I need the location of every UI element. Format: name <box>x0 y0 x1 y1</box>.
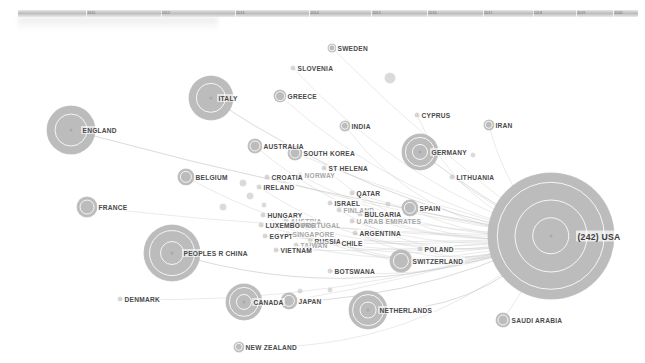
graph-node-label-ireland: IRELAND <box>262 183 296 191</box>
graph-node-australia[interactable] <box>248 139 262 153</box>
graph-node-spain[interactable] <box>402 200 418 216</box>
graph-node-poland[interactable] <box>418 247 422 251</box>
graph-node-core <box>419 151 422 154</box>
graph-node-core <box>70 129 73 132</box>
graph-node-sweden[interactable] <box>328 44 336 52</box>
graph-node-label-slovenia: SLOVENIA <box>296 64 335 72</box>
graph-node-slovenia[interactable] <box>291 66 295 70</box>
graph-node-unlabeled[interactable] <box>471 153 475 157</box>
graph-node-label-spain: SPAIN <box>418 204 442 212</box>
graph-node-label-japan: JAPAN <box>297 297 323 305</box>
graph-node-label-qatar: QATAR <box>355 189 382 197</box>
graph-node-label-botswana: BOTSWANA <box>333 267 376 275</box>
graph-node-label-vietnam: VIETNAM <box>279 246 313 254</box>
graph-node-luxembourg[interactable] <box>259 223 263 227</box>
graph-node-label-u-arab-emirates: U ARAB EMIRATES <box>355 217 423 225</box>
graph-node-u-arab-emirates[interactable] <box>350 219 354 223</box>
graph-node-label-sweden: SWEDEN <box>336 44 369 52</box>
graph-node-unlabeled[interactable] <box>298 289 302 293</box>
graph-node-label-usa: (242) USA <box>576 231 622 242</box>
graph-node-saudi-arabia[interactable] <box>496 313 510 327</box>
graph-node-label-germany: GERMANY <box>430 148 468 156</box>
graph-node-israel[interactable] <box>328 201 332 205</box>
graph-node-label-croatia: CROATIA <box>270 173 304 181</box>
graph-node-unlabeled[interactable] <box>385 73 395 83</box>
graph-node-botswana[interactable] <box>328 269 332 273</box>
graph-node-st-helena[interactable] <box>322 166 326 170</box>
graph-node-label-chile: CHILE <box>340 239 364 247</box>
graph-node-belgium[interactable] <box>178 169 194 185</box>
graph-node-label-south-korea: SOUTH KOREA <box>302 149 356 157</box>
graph-node-unlabeled[interactable] <box>240 180 246 186</box>
graph-node-label-norway: NORWAY <box>303 171 336 179</box>
graph-node-qatar[interactable] <box>350 191 354 195</box>
graph-node-label-poland: POLAND <box>423 245 455 253</box>
graph-node-label-lithuania: LITHUANIA <box>455 173 496 181</box>
graph-node-label-portugal: PORTUGAL <box>300 221 342 229</box>
network-graph-visualization: 2011201220132014201520162017201820192020… <box>0 0 645 363</box>
graph-node-label-iran: IRAN <box>494 121 514 129</box>
graph-canvas[interactable]: (242) USAENGLANDITALYPEOPLES R CHINAGERM… <box>0 0 645 363</box>
graph-node-core <box>367 309 370 312</box>
graph-node-finland[interactable] <box>337 208 341 212</box>
graph-node-core <box>210 97 213 100</box>
graph-node-label-st-helena: ST HELENA <box>327 164 370 172</box>
graph-node-unlabeled[interactable] <box>220 204 226 210</box>
graph-node-india[interactable] <box>340 121 350 131</box>
graph-node-label-greece: GREECE <box>286 92 318 100</box>
graph-node-label-canada: CANADA <box>252 298 285 306</box>
graph-node-label-italy: ITALY <box>217 94 239 102</box>
graph-node-core <box>243 301 246 304</box>
graph-node-unlabeled[interactable] <box>247 193 253 199</box>
graph-node-croatia[interactable] <box>265 175 269 179</box>
graph-node-label-belgium: BELGIUM <box>194 173 229 181</box>
graph-node-label-france: FRANCE <box>97 203 129 211</box>
graph-node-argentina[interactable] <box>353 231 357 235</box>
graph-node-core <box>171 252 174 255</box>
graph-node-label-netherlands: NETHERLANDS <box>378 306 434 314</box>
graph-node-label-argentina: ARGENTINA <box>358 229 402 237</box>
graph-node-switzerland[interactable] <box>390 250 412 272</box>
graph-node-ireland[interactable] <box>257 185 261 189</box>
graph-node-label-england: ENGLAND <box>81 126 118 134</box>
graph-node-label-switzerland: SWITZERLAND <box>411 257 465 265</box>
graph-node-label-saudi-arabia: SAUDI ARABIA <box>510 316 564 324</box>
graph-node-label-new-zealand: NEW ZEALAND <box>244 343 298 351</box>
graph-node-vietnam[interactable] <box>274 248 278 252</box>
graph-node-unlabeled[interactable] <box>262 203 266 207</box>
graph-node-label-cyprus: CYPRUS <box>420 111 452 119</box>
graph-node-france[interactable] <box>77 197 97 217</box>
graph-node-unlabeled[interactable] <box>386 202 390 206</box>
graph-node-label-india: INDIA <box>350 122 372 130</box>
graph-node-denmark[interactable] <box>118 297 122 301</box>
graph-node-unlabeled[interactable] <box>328 288 332 292</box>
graph-node-iran[interactable] <box>484 120 494 130</box>
graph-node-greece[interactable] <box>274 90 286 102</box>
graph-node-new-zealand[interactable] <box>234 342 244 352</box>
graph-node-label-peoples-r-china: PEOPLES R CHINA <box>182 249 249 257</box>
graph-node-label-australia: AUSTRALIA <box>262 142 305 150</box>
graph-node-hungary[interactable] <box>261 213 265 217</box>
graph-node-core <box>550 235 553 238</box>
graph-node-cyprus[interactable] <box>415 113 419 117</box>
graph-node-label-denmark: DENMARK <box>123 295 161 303</box>
graph-node-egypt[interactable] <box>263 234 267 238</box>
graph-node-lithuania[interactable] <box>450 175 454 179</box>
